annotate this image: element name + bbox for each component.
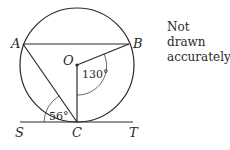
angle-label-sca: 56° — [49, 110, 69, 123]
label-s: S — [15, 125, 24, 140]
note-line-2: accurately — [167, 50, 230, 65]
radius-ob — [77, 44, 129, 65]
label-a: A — [10, 36, 20, 51]
center-point-o — [75, 63, 78, 66]
label-b: B — [132, 36, 143, 51]
not-drawn-accurately-note: Not drawn accurately — [167, 20, 230, 65]
label-c: C — [72, 125, 82, 140]
label-t: T — [129, 125, 139, 140]
note-line-1: Not drawn — [167, 20, 230, 50]
angle-label-boc: 130° — [82, 68, 109, 81]
label-o: O — [63, 53, 74, 68]
